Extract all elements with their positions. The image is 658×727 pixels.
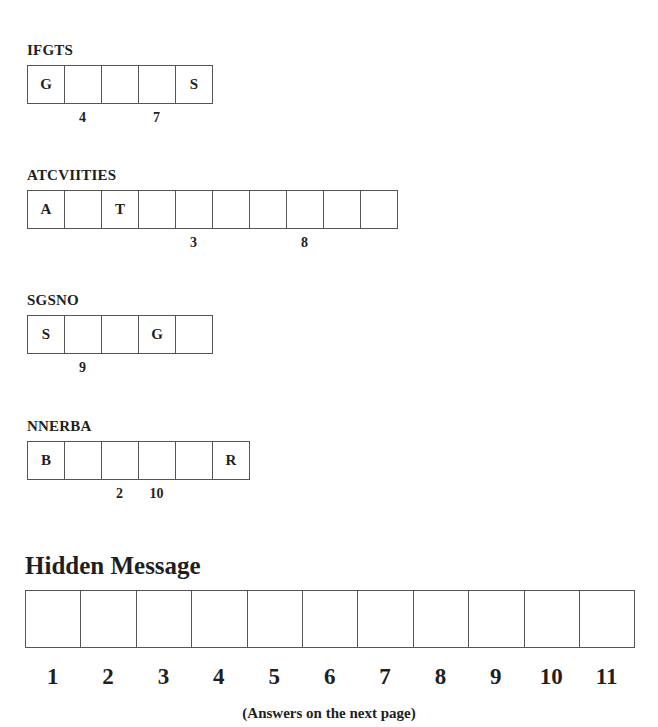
- position-number: [64, 486, 101, 506]
- position-number: 7: [138, 110, 175, 130]
- letter-box[interactable]: A: [28, 191, 65, 228]
- answer-boxes: B R: [27, 441, 250, 480]
- letter-box[interactable]: B: [28, 442, 65, 479]
- position-number: [212, 235, 249, 255]
- puzzle-sgsno: SGSNO S G 9: [27, 291, 213, 380]
- letter-box[interactable]: [102, 442, 139, 479]
- position-number: 4: [64, 110, 101, 130]
- position-number: [138, 235, 175, 255]
- message-box[interactable]: [469, 591, 524, 647]
- message-number: 2: [80, 662, 135, 692]
- puzzle-ifgts: IFGTS G S 4 7: [27, 41, 213, 130]
- position-numbers: 4 7: [27, 110, 213, 130]
- position-number: [249, 235, 286, 255]
- puzzle-atcviities: ATCVIITIES A T 3 8: [27, 166, 398, 255]
- position-number: [101, 110, 138, 130]
- message-number: 7: [357, 662, 412, 692]
- message-box[interactable]: [137, 591, 192, 647]
- position-numbers: 2 10: [27, 486, 250, 506]
- hidden-message-title: Hidden Message: [25, 551, 201, 581]
- message-number: 11: [579, 662, 634, 692]
- message-number: 4: [191, 662, 246, 692]
- position-number: [101, 235, 138, 255]
- position-number: [27, 486, 64, 506]
- position-number: [175, 360, 212, 380]
- letter-box[interactable]: [176, 316, 213, 353]
- puzzle-nnerba: NNERBA B R 2 10: [27, 417, 250, 506]
- message-box[interactable]: [26, 591, 81, 647]
- letter-box[interactable]: [213, 191, 250, 228]
- scrambled-word: SGSNO: [27, 291, 213, 309]
- letter-box[interactable]: [65, 66, 102, 103]
- position-number: [138, 360, 175, 380]
- position-number: 10: [138, 486, 175, 506]
- message-box[interactable]: [248, 591, 303, 647]
- letter-box[interactable]: S: [28, 316, 65, 353]
- message-box[interactable]: [81, 591, 136, 647]
- position-number: 3: [175, 235, 212, 255]
- letter-box[interactable]: [139, 442, 176, 479]
- letter-box[interactable]: R: [213, 442, 250, 479]
- message-number: 8: [413, 662, 468, 692]
- letter-box[interactable]: G: [139, 316, 176, 353]
- message-box[interactable]: [358, 591, 413, 647]
- letter-box[interactable]: [287, 191, 324, 228]
- answer-boxes: S G: [27, 315, 213, 354]
- position-number: [212, 486, 249, 506]
- position-numbers: 9: [27, 360, 213, 380]
- message-number: 1: [25, 662, 80, 692]
- position-numbers: 3 8: [27, 235, 398, 255]
- message-number: 3: [136, 662, 191, 692]
- letter-box[interactable]: [250, 191, 287, 228]
- message-number: 10: [524, 662, 579, 692]
- answer-boxes: A T: [27, 190, 398, 229]
- position-number: [27, 235, 64, 255]
- letter-box[interactable]: [176, 191, 213, 228]
- scrambled-word: ATCVIITIES: [27, 166, 398, 184]
- hidden-message-numbers: 1 2 3 4 5 6 7 8 9 10 11: [25, 662, 634, 692]
- letter-box[interactable]: G: [28, 66, 65, 103]
- position-number: [360, 235, 397, 255]
- position-number: [27, 360, 64, 380]
- letter-box[interactable]: [139, 66, 176, 103]
- answer-boxes: G S: [27, 65, 213, 104]
- message-box[interactable]: [414, 591, 469, 647]
- position-number: [27, 110, 64, 130]
- position-number: [175, 110, 212, 130]
- letter-box[interactable]: [65, 316, 102, 353]
- position-number: 8: [286, 235, 323, 255]
- letter-box[interactable]: [102, 316, 139, 353]
- position-number: [101, 360, 138, 380]
- letter-box[interactable]: [65, 191, 102, 228]
- letter-box[interactable]: [65, 442, 102, 479]
- message-box[interactable]: [192, 591, 247, 647]
- position-number: 9: [64, 360, 101, 380]
- letter-box[interactable]: T: [102, 191, 139, 228]
- letter-box[interactable]: [361, 191, 398, 228]
- scrambled-word: NNERBA: [27, 417, 250, 435]
- message-number: 5: [247, 662, 302, 692]
- letter-box[interactable]: [176, 442, 213, 479]
- position-number: [323, 235, 360, 255]
- position-number: [64, 235, 101, 255]
- letter-box[interactable]: S: [176, 66, 213, 103]
- message-number: 6: [302, 662, 357, 692]
- scrambled-word: IFGTS: [27, 41, 213, 59]
- message-number: 9: [468, 662, 523, 692]
- answers-note: (Answers on the next page): [0, 705, 658, 722]
- message-box[interactable]: [580, 591, 635, 647]
- hidden-message-boxes: [25, 590, 635, 648]
- message-box[interactable]: [303, 591, 358, 647]
- message-box[interactable]: [525, 591, 580, 647]
- position-number: [175, 486, 212, 506]
- letter-box[interactable]: [324, 191, 361, 228]
- letter-box[interactable]: [139, 191, 176, 228]
- position-number: 2: [101, 486, 138, 506]
- letter-box[interactable]: [102, 66, 139, 103]
